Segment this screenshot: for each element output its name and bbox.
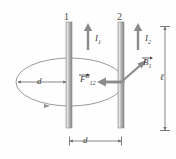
force-symbol-wrap: F xyxy=(80,75,86,84)
dimension-length-ell-label: ℓ xyxy=(160,73,164,82)
force-label: F B12 xyxy=(80,73,96,86)
current-2-label: I2 xyxy=(145,34,151,45)
current-2-subscript: 2 xyxy=(148,39,151,45)
physics-figure: 1 2 I1 I2 B 1 F B xyxy=(0,0,176,159)
current-1-subscript: 1 xyxy=(98,39,101,45)
dimension-separation-d xyxy=(70,137,122,146)
current-1-label: I1 xyxy=(95,34,101,45)
magnetic-field-symbol: B xyxy=(143,57,149,67)
current-arrow-1 xyxy=(84,23,92,50)
force-vector-arrow xyxy=(97,77,121,86)
wire-2-number-label: 2 xyxy=(117,12,122,22)
wire-1-number-label: 1 xyxy=(64,12,69,22)
wire-1 xyxy=(66,22,72,128)
force-superscript: B xyxy=(86,73,90,79)
dimension-separation-d-label: d xyxy=(83,136,88,145)
wire-2 xyxy=(118,22,124,128)
current-arrow-2 xyxy=(134,23,142,50)
magnetic-field-symbol-wrap: B xyxy=(143,58,149,67)
magnetic-field-label: B 1 xyxy=(143,58,152,69)
force-subscript: 12 xyxy=(90,80,96,86)
force-symbol: F xyxy=(80,74,86,84)
dimension-radius-d-label: d xyxy=(37,77,42,86)
